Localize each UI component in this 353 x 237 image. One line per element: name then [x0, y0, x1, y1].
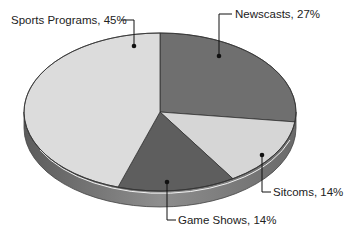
label-game-shows: Game Shows, 14%: [178, 214, 276, 226]
pie-slices: [24, 33, 296, 191]
label-newscasts: Newscasts, 27%: [235, 8, 320, 20]
pie-chart: Sports Programs, 45% Newscasts, 27% Sitc…: [0, 0, 353, 237]
label-sports: Sports Programs, 45%: [11, 14, 127, 26]
slice-newscasts: [160, 33, 296, 122]
label-sitcoms: Sitcoms, 14%: [273, 186, 343, 198]
